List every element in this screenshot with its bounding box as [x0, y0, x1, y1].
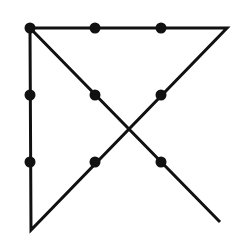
dot [90, 90, 101, 101]
dot [90, 23, 101, 34]
dot [25, 157, 36, 168]
dot [25, 23, 36, 34]
dot [156, 90, 167, 101]
dot [156, 23, 167, 34]
connecting-line [30, 28, 227, 230]
dot [156, 157, 167, 168]
dot [25, 90, 36, 101]
solution-path [30, 28, 227, 230]
dot [90, 157, 101, 168]
nine-dots-diagram [0, 0, 244, 242]
